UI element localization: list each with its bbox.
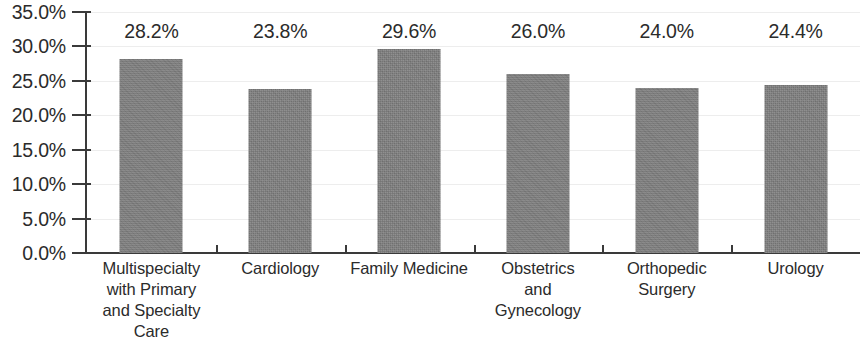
bar-slot	[474, 12, 603, 253]
bar-slot	[731, 12, 860, 253]
plot-area	[87, 12, 860, 253]
x-axis-category-label-line: Cardiology	[216, 258, 345, 279]
y-axis-tick-label: 30.0%	[0, 35, 66, 58]
x-axis-category-label-line: and	[474, 279, 603, 300]
x-axis-category-label-line: Gynecology	[474, 300, 603, 321]
bar[interactable]	[506, 74, 569, 253]
x-axis-category-label-line: Care	[87, 321, 216, 342]
x-axis-category-label-line: with Primary	[87, 279, 216, 300]
bar[interactable]	[378, 49, 441, 253]
x-axis-category-label-line: Orthopedic	[602, 258, 731, 279]
bar-value-label: 24.0%	[602, 20, 731, 43]
x-axis-category-label-line: Urology	[731, 258, 860, 279]
y-axis-tick-label: 25.0%	[0, 69, 66, 92]
bar-chart: 35.0%30.0%25.0%20.0%15.0%10.0%5.0%0.0% 2…	[0, 0, 860, 343]
y-axis-tick-label: 35.0%	[0, 1, 66, 24]
x-axis-category-label: ObstetricsandGynecology	[474, 258, 603, 321]
bar[interactable]	[120, 59, 183, 253]
bar-value-label: 23.8%	[216, 20, 345, 43]
bar-slot	[345, 12, 474, 253]
y-axis-tick-label: 5.0%	[0, 207, 66, 230]
bar-slot	[216, 12, 345, 253]
x-axis-category-label-line: Obstetrics	[474, 258, 603, 279]
x-axis-category-label: Family Medicine	[345, 258, 474, 279]
bar[interactable]	[249, 89, 312, 253]
bar[interactable]	[764, 85, 827, 253]
y-axis-tick-label: 20.0%	[0, 104, 66, 127]
bar-value-label: 26.0%	[474, 20, 603, 43]
y-axis-tick-label: 0.0%	[0, 242, 66, 265]
bar-value-label: 28.2%	[87, 20, 216, 43]
y-axis-tick-label: 10.0%	[0, 173, 66, 196]
bar[interactable]	[635, 88, 698, 253]
y-axis-tick-label: 15.0%	[0, 138, 66, 161]
x-axis-category-label: OrthopedicSurgery	[602, 258, 731, 300]
x-axis-category-label: Multispecialtywith Primaryand SpecialtyC…	[87, 258, 216, 342]
x-axis-category-label: Urology	[731, 258, 860, 279]
bar-slot	[602, 12, 731, 253]
bar-value-label: 29.6%	[345, 20, 474, 43]
x-axis-category-label-line: Surgery	[602, 279, 731, 300]
bar-slot	[87, 12, 216, 253]
x-axis-category-label: Cardiology	[216, 258, 345, 279]
x-axis-category-label-line: Multispecialty	[87, 258, 216, 279]
x-axis-category-label-line: Family Medicine	[345, 258, 474, 279]
bar-value-label: 24.4%	[731, 20, 860, 43]
x-axis-category-label-line: and Specialty	[87, 300, 216, 321]
y-axis-tick-labels: 35.0%30.0%25.0%20.0%15.0%10.0%5.0%0.0%	[0, 0, 66, 343]
